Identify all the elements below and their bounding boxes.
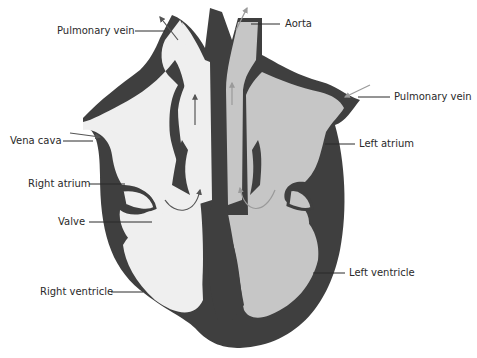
label-right-ventricle: Right ventricle xyxy=(40,286,113,298)
label-aorta: Aorta xyxy=(285,18,312,30)
label-left-atrium: Left atrium xyxy=(359,138,414,150)
label-vena-cava: Vena cava xyxy=(10,135,62,147)
label-right-atrium: Right atrium xyxy=(28,178,91,190)
pulmonary-vein-right-arrow xyxy=(345,85,370,97)
label-pulmonary-vein-right: Pulmonary vein xyxy=(394,91,472,103)
label-valve: Valve xyxy=(58,216,85,228)
label-pulmonary-vein-left: Pulmonary vein xyxy=(57,25,135,37)
label-left-ventricle: Left ventricle xyxy=(349,267,415,279)
